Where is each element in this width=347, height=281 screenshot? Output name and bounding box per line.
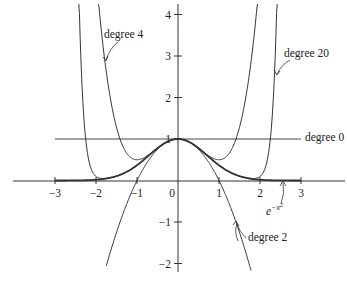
- x-tick-label: −2: [90, 187, 102, 199]
- degree-4-label: degree 4: [104, 28, 144, 41]
- degree-20-label: degree 20: [284, 47, 329, 60]
- gaussian-label-exp2: 2: [280, 202, 283, 208]
- degree-0-label: degree 0: [305, 131, 345, 144]
- degree-2-label: degree 2: [248, 231, 288, 244]
- gaussian-arrow: [281, 182, 284, 204]
- degree-2-curve: [106, 139, 251, 270]
- annotation-arrows: [103, 42, 290, 241]
- y-tick-label: −1: [159, 216, 171, 228]
- y-tick-label: −2: [159, 258, 171, 270]
- x-tick-label: 2: [257, 187, 263, 199]
- x-tick-label: −3: [49, 187, 61, 199]
- y-tick-label: 4: [165, 9, 171, 21]
- y-tick-label: 3: [165, 50, 171, 62]
- gaussian-label: e−x2: [266, 202, 283, 217]
- x-tick-label: 3: [298, 187, 304, 199]
- chart: −3−2−10123 −2−11234 degree 4 degree 20 d…: [0, 0, 347, 281]
- y-tick-label: 2: [165, 92, 171, 104]
- axes: [13, 4, 345, 272]
- x-tick-label: 1: [216, 187, 222, 199]
- x-tick-label: 0: [169, 187, 175, 199]
